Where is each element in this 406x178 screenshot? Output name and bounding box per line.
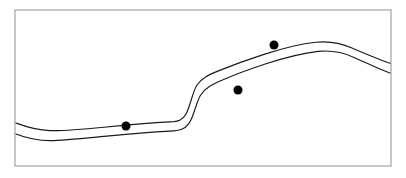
figure-root: [0, 0, 406, 178]
data-point-upper-right: [270, 41, 279, 50]
data-point-middle: [234, 86, 243, 95]
data-point-left: [122, 122, 131, 131]
figure-canvas: [0, 0, 406, 178]
plot-border: [15, 10, 391, 166]
